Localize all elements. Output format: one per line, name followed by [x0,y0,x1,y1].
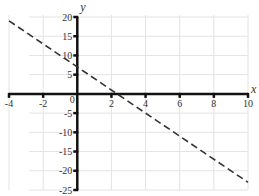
x-tick-label: 2 [109,98,114,109]
tick-labels: -4-20246810-25-20-15-10-55101520 [5,12,253,196]
x-tick-label: 6 [177,98,182,109]
y-tick-label: -15 [59,146,72,157]
x-tick-label: 0 [70,94,75,105]
x-tick-label: 4 [143,98,148,109]
x-tick-label: -4 [5,98,13,109]
y-tick-label: -20 [59,165,72,176]
x-tick-label: 8 [211,98,216,109]
x-axis-label: x [250,82,257,96]
y-tick-label: -25 [59,185,72,196]
y-tick-label: 10 [62,50,72,61]
x-tick-label: 10 [243,98,253,109]
y-axis-label: y [79,0,86,14]
y-tick-label: 15 [62,31,72,42]
y-tick-label: 5 [67,69,72,80]
y-tick-label: 20 [62,12,72,23]
line-chart: -4-20246810-25-20-15-10-55101520 x y [0,0,259,195]
y-tick-label: -10 [59,127,72,138]
x-tick-label: -2 [39,98,47,109]
y-tick-label: -5 [64,108,72,119]
